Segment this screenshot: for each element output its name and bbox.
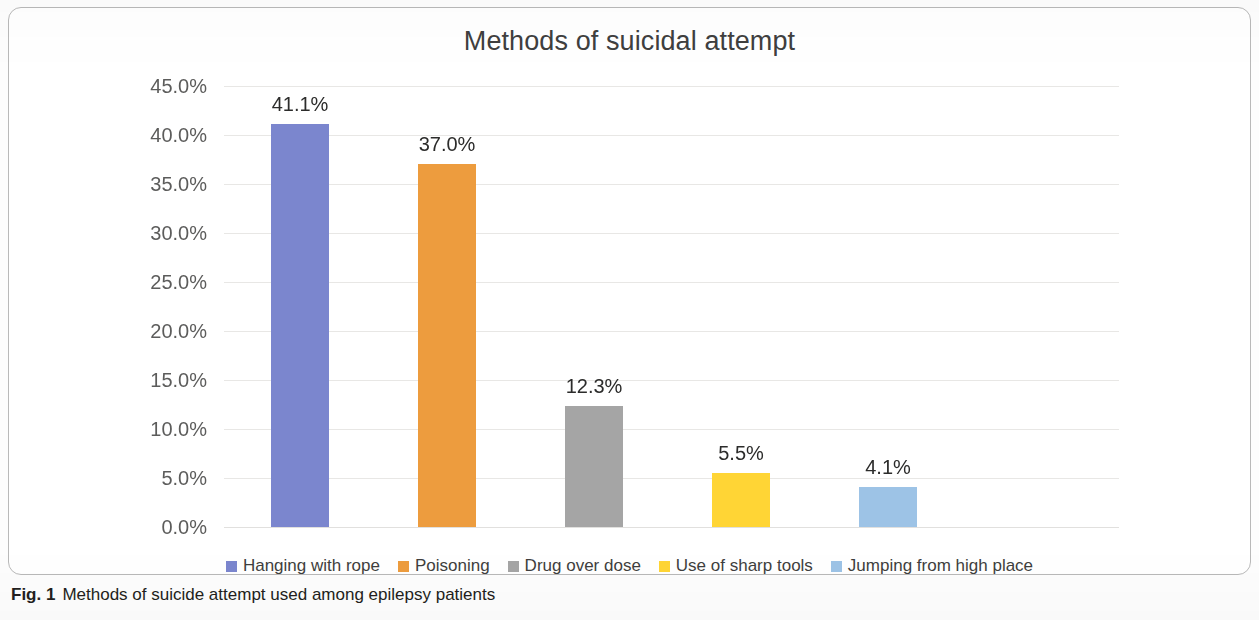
legend-color-swatch — [226, 561, 237, 572]
figure-caption: Fig. 1Methods of suicide attempt used am… — [11, 585, 495, 605]
legend-item[interactable]: Hanging with rope — [226, 556, 380, 575]
figure-caption-text: Methods of suicide attempt used among ep… — [62, 585, 495, 604]
bar-value-label: 37.0% — [419, 133, 476, 156]
legend-item[interactable]: Poisoning — [398, 556, 490, 575]
bar-value-label: 4.1% — [865, 456, 911, 479]
legend-label: Poisoning — [415, 556, 490, 575]
legend-item[interactable]: Use of sharp tools — [659, 556, 813, 575]
y-axis-tick-label: 25.0% — [150, 271, 207, 294]
y-axis-tick-label: 40.0% — [150, 124, 207, 147]
legend-label: Hanging with rope — [243, 556, 380, 575]
gridline: 0.0% — [224, 527, 1119, 528]
figure-number: Fig. 1 — [11, 585, 55, 604]
y-axis-tick-label: 30.0% — [150, 222, 207, 245]
bar[interactable] — [271, 124, 329, 527]
legend-item[interactable]: Drug over dose — [508, 556, 641, 575]
legend-item[interactable]: Jumping from high place — [831, 556, 1033, 575]
bar[interactable] — [712, 473, 770, 527]
bar[interactable] — [565, 406, 623, 527]
legend-color-swatch — [831, 561, 842, 572]
y-axis-tick-label: 20.0% — [150, 320, 207, 343]
legend-label: Jumping from high place — [848, 556, 1033, 575]
figure-page: Methods of suicidal attempt 45.0%40.0%35… — [0, 0, 1259, 620]
chart-legend: Hanging with ropePoisoningDrug over dose… — [9, 556, 1250, 575]
legend-color-swatch — [659, 561, 670, 572]
y-axis-tick-label: 10.0% — [150, 418, 207, 441]
bar-value-label: 12.3% — [566, 375, 623, 398]
legend-label: Use of sharp tools — [676, 556, 813, 575]
y-axis-tick-label: 0.0% — [161, 516, 207, 539]
legend-label: Drug over dose — [525, 556, 641, 575]
bar-value-label: 5.5% — [718, 442, 764, 465]
y-axis-tick-label: 35.0% — [150, 173, 207, 196]
plot-area: 45.0%40.0%35.0%30.0%25.0%20.0%15.0%10.0%… — [224, 86, 1119, 527]
bar[interactable] — [418, 164, 476, 527]
y-axis-tick-label: 5.0% — [161, 467, 207, 490]
bar-series: 41.1%37.0%12.3%5.5%4.1% — [224, 86, 1119, 527]
chart-title: Methods of suicidal attempt — [9, 26, 1250, 57]
legend-color-swatch — [508, 561, 519, 572]
legend-color-swatch — [398, 561, 409, 572]
figure-card: Methods of suicidal attempt 45.0%40.0%35… — [8, 7, 1251, 575]
y-axis-tick-label: 45.0% — [150, 75, 207, 98]
bar-value-label: 41.1% — [272, 93, 329, 116]
y-axis-tick-label: 15.0% — [150, 369, 207, 392]
bar[interactable] — [859, 487, 917, 527]
